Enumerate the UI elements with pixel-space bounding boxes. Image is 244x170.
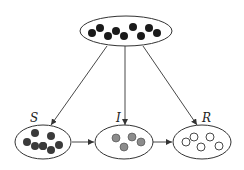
arrow-source-to-r xyxy=(143,46,197,125)
source-arrows xyxy=(51,46,197,125)
sir-diagram: S I R xyxy=(0,0,244,170)
compartment-i: I xyxy=(95,111,153,159)
arrow-source-to-s xyxy=(51,46,107,125)
label-r: R xyxy=(201,111,211,125)
label-s: S xyxy=(30,111,38,125)
compartment-r: R xyxy=(173,111,231,159)
source-population xyxy=(80,16,172,46)
compartment-s: S xyxy=(15,111,71,159)
label-i: I xyxy=(115,111,121,125)
